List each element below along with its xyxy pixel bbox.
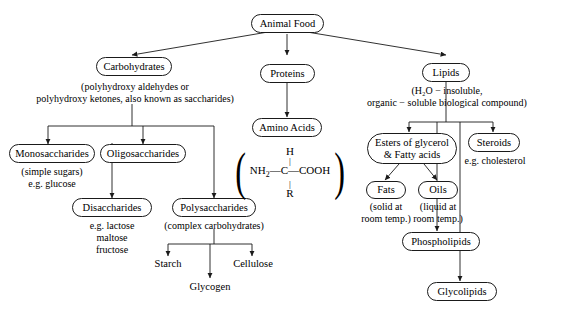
node-label-amino-acids: Amino Acids	[259, 122, 315, 133]
label-glycogen-text: Glycogen	[190, 281, 231, 292]
node-disaccharides[interactable]: Disaccharides	[72, 198, 152, 217]
node-oils[interactable]: Oils	[418, 181, 458, 199]
node-monosaccharides[interactable]: Monosaccharides	[9, 144, 95, 163]
node-esters-of-glycerol[interactable]: Esters of glycerol & Fatty acids	[367, 133, 457, 164]
label-glycogen: Glycogen	[180, 281, 240, 292]
caption-lipids-line2: organic − soluble biological compound)	[330, 97, 564, 109]
node-label-disaccharides: Disaccharides	[83, 202, 142, 213]
node-label-esters: Esters of glycerol & Fatty acids	[375, 137, 449, 161]
formula-atom-c: C	[281, 164, 288, 176]
caption-polysaccharides-text: (complex carbohydrates)	[148, 220, 280, 232]
node-amino-acids[interactable]: Amino Acids	[252, 118, 322, 137]
caption-oils-line2: room temp.)	[407, 213, 469, 225]
label-starch: Starch	[138, 258, 198, 269]
formula-atom-r: R	[286, 188, 293, 199]
caption-disaccharides-line1: e.g. lactose	[72, 220, 152, 232]
caption-carbohydrates: (polyhydroxy aldehydes or polyhydroxy ke…	[0, 81, 270, 105]
caption-monosaccharides-line2: e.g. glucose	[9, 178, 95, 190]
caption-oils: (liquid at room temp.)	[407, 201, 469, 225]
caption-oils-line1: (liquid at	[407, 201, 469, 213]
paren-right: )	[334, 151, 345, 194]
flowchart-diagram: Animal Food Carbohydrates (polyhydroxy a…	[0, 0, 567, 316]
caption-lipids: (H₂O − insoluble, organic − soluble biol…	[330, 85, 564, 109]
amino-acid-formula: ( H | NH2—C—COOH | R )	[240, 145, 340, 200]
caption-lipids-line1: (H₂O − insoluble,	[330, 85, 564, 97]
label-starch-text: Starch	[155, 258, 182, 269]
node-label-lipids: Lipids	[433, 67, 460, 78]
edge-root-to-lipids	[307, 32, 446, 55]
node-label-oils: Oils	[429, 184, 447, 195]
formula-group-nh2: NH2	[250, 164, 270, 176]
node-label-oligosaccharides: Oligosaccharides	[107, 148, 179, 159]
caption-disaccharides-line2: maltose	[72, 232, 152, 244]
caption-carbohydrates-line2: polyhydroxy ketones, also known as sacch…	[0, 93, 270, 105]
node-proteins[interactable]: Proteins	[260, 64, 315, 83]
formula-mid-row: NH2—C—COOH	[250, 165, 330, 179]
edge-esters-to-oils	[424, 164, 437, 180]
node-phospholipids[interactable]: Phospholipids	[402, 232, 480, 251]
label-cellulose-text: Cellulose	[233, 258, 273, 269]
caption-disaccharides-line3: fructose	[72, 244, 152, 256]
node-lipids[interactable]: Lipids	[422, 63, 470, 82]
node-label-steroids: Steroids	[477, 137, 511, 148]
node-label-monosaccharides: Monosaccharides	[15, 148, 88, 159]
node-label-carbohydrates: Carbohydrates	[103, 61, 164, 72]
node-label-proteins: Proteins	[270, 68, 304, 79]
node-oligosaccharides[interactable]: Oligosaccharides	[100, 144, 186, 163]
caption-steroids-text: e.g. cholesterol	[455, 155, 535, 167]
caption-monosaccharides: (simple sugars) e.g. glucose	[9, 166, 95, 190]
node-label-phospholipids: Phospholipids	[411, 236, 471, 247]
node-animal-food[interactable]: Animal Food	[251, 14, 324, 33]
node-label-glycolipids: Glycolipids	[438, 286, 487, 297]
formula-group-cooh: COOH	[299, 164, 330, 176]
formula-core: H | NH2—C—COOH | R	[249, 146, 331, 198]
paren-left: (	[235, 151, 246, 194]
node-label-esters-line2: & Fatty acids	[375, 149, 449, 161]
formula-bond-left: —	[270, 164, 281, 176]
node-label-animal-food: Animal Food	[260, 18, 316, 29]
caption-polysaccharides: (complex carbohydrates)	[148, 220, 280, 232]
node-carbohydrates[interactable]: Carbohydrates	[96, 57, 172, 76]
node-label-fats: Fats	[377, 184, 395, 195]
caption-monosaccharides-line1: (simple sugars)	[9, 166, 95, 178]
node-polysaccharides[interactable]: Polysaccharides	[172, 198, 256, 217]
node-label-polysaccharides: Polysaccharides	[180, 202, 248, 213]
node-label-esters-line1: Esters of glycerol	[375, 137, 449, 149]
edge-esters-to-fats	[385, 164, 399, 180]
caption-disaccharides: e.g. lactose maltose fructose	[72, 220, 152, 255]
caption-steroids: e.g. cholesterol	[455, 155, 535, 167]
label-cellulose: Cellulose	[222, 258, 284, 269]
formula-bond-right: —	[288, 164, 299, 176]
node-glycolipids[interactable]: Glycolipids	[427, 282, 497, 301]
caption-carbohydrates-line1: (polyhydroxy aldehydes or	[0, 81, 270, 93]
edge-root-to-carbohydrates	[132, 32, 268, 55]
node-steroids[interactable]: Steroids	[468, 133, 520, 152]
node-fats[interactable]: Fats	[366, 181, 406, 199]
